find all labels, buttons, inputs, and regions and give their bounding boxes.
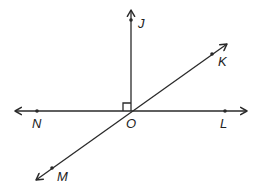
point-l-dot [223, 109, 227, 113]
point-m-dot [50, 166, 54, 170]
point-k-dot [210, 52, 214, 56]
point-label-j: J [137, 16, 145, 31]
right-angle-box [123, 103, 131, 111]
right-angle-marker [123, 103, 131, 111]
lines-layer [15, 10, 247, 180]
point-label-k: K [218, 54, 228, 69]
labels-layer: JKNOLM [32, 16, 228, 184]
point-label-m: M [57, 169, 68, 184]
point-j-dot [129, 18, 133, 22]
point-label-l: L [220, 116, 227, 131]
point-n-dot [35, 109, 39, 113]
point-label-o: O [126, 116, 136, 131]
point-label-n: N [32, 116, 42, 131]
geometry-diagram: JKNOLM [0, 0, 260, 192]
